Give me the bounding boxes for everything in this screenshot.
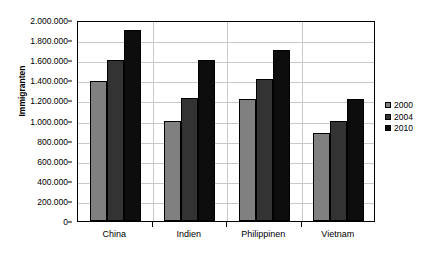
legend: 200020042010 [385, 101, 413, 133]
legend-item-2010[interactable]: 2010 [385, 124, 413, 133]
y-tick-label: 1.000.000 [30, 117, 68, 127]
bar-indien-2004[interactable] [181, 98, 198, 221]
legend-swatch-icon [385, 114, 391, 120]
legend-label: 2010 [394, 124, 413, 133]
y-tick-mark [68, 81, 72, 82]
bar-indien-2010[interactable] [198, 60, 215, 221]
bar-vietnam-2000[interactable] [313, 133, 330, 221]
y-tick-mark [68, 121, 72, 122]
y-tick-mark [68, 161, 72, 162]
legend-label: 2004 [394, 113, 413, 122]
y-tick-label: 1.600.000 [30, 56, 68, 66]
x-tick-mark [152, 222, 153, 227]
bar-vietnam-2010[interactable] [347, 99, 364, 221]
bar-philippinen-2004[interactable] [256, 79, 273, 221]
bar-china-2004[interactable] [107, 60, 124, 221]
y-tick-mark [68, 181, 72, 182]
y-tick-label: 1.800.000 [30, 36, 68, 46]
legend-item-2000[interactable]: 2000 [385, 101, 413, 110]
y-axis-tick-labels: 2.000.0001.800.0001.600.0001.400.0001.20… [14, 21, 72, 222]
legend-item-2004[interactable]: 2004 [385, 113, 413, 122]
x-tick-mark [301, 222, 302, 227]
bar-philippinen-2010[interactable] [273, 50, 290, 221]
y-tick-label: 2.000.000 [30, 16, 68, 26]
bar-group [78, 22, 153, 221]
y-tick-mark [68, 21, 72, 22]
bar-philippinen-2000[interactable] [239, 99, 256, 221]
bar-china-2010[interactable] [124, 30, 141, 221]
bar-group [153, 22, 228, 221]
bar-group [302, 22, 377, 221]
y-tick-label: 800.000 [37, 137, 68, 147]
legend-label: 2000 [394, 101, 413, 110]
x-axis-label-china: China [102, 229, 126, 239]
bar-vietnam-2004[interactable] [330, 121, 347, 222]
y-tick-mark [68, 41, 72, 42]
x-axis-label-philippinen: Philippinen [241, 229, 285, 239]
y-tick-label: 1.400.000 [30, 76, 68, 86]
y-tick-label: 400.000 [37, 177, 68, 187]
y-tick-mark [68, 61, 72, 62]
bar-indien-2000[interactable] [164, 121, 181, 222]
y-tick-label: 200.000 [37, 197, 68, 207]
bar-chart: Immigranten 2.000.0001.800.0001.600.0001… [0, 0, 433, 262]
plot-area [77, 21, 375, 222]
legend-swatch-icon [385, 125, 391, 131]
bar-china-2000[interactable] [90, 81, 107, 221]
bar-group [227, 22, 302, 221]
x-tick-mark [226, 222, 227, 227]
y-tick-mark [68, 201, 72, 202]
y-tick-mark [68, 101, 72, 102]
x-axis-label-indien: Indien [176, 229, 201, 239]
y-tick-mark [68, 141, 72, 142]
x-axis-label-vietnam: Vietnam [321, 229, 354, 239]
y-tick-label: 600.000 [37, 157, 68, 167]
legend-swatch-icon [385, 102, 391, 108]
y-tick-mark [68, 222, 72, 223]
y-tick-label: 1.200.000 [30, 96, 68, 106]
